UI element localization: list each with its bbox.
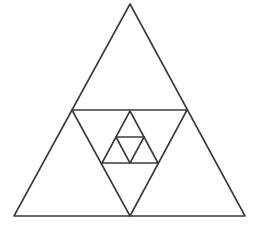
inverted-triangle-small (116, 137, 144, 163)
nested-triangles-diagram (0, 0, 263, 229)
